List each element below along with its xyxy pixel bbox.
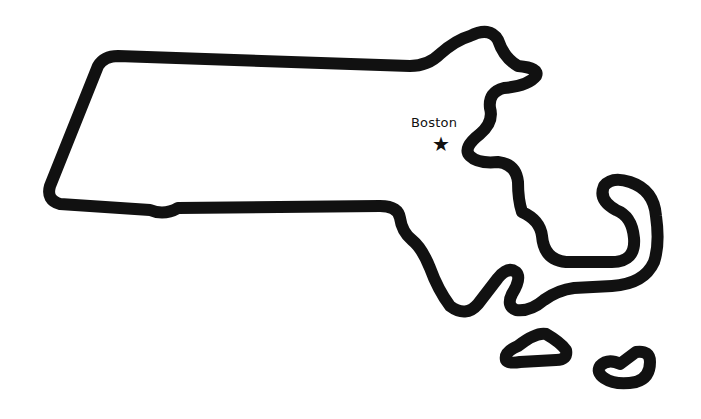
star-icon: ★: [432, 134, 450, 154]
nantucket-outline: [599, 352, 650, 384]
massachusetts-map: [0, 0, 701, 419]
mainland-outline: [49, 32, 657, 312]
city-label-boston: Boston: [411, 115, 457, 130]
marthas-vineyard-outline: [506, 334, 567, 363]
